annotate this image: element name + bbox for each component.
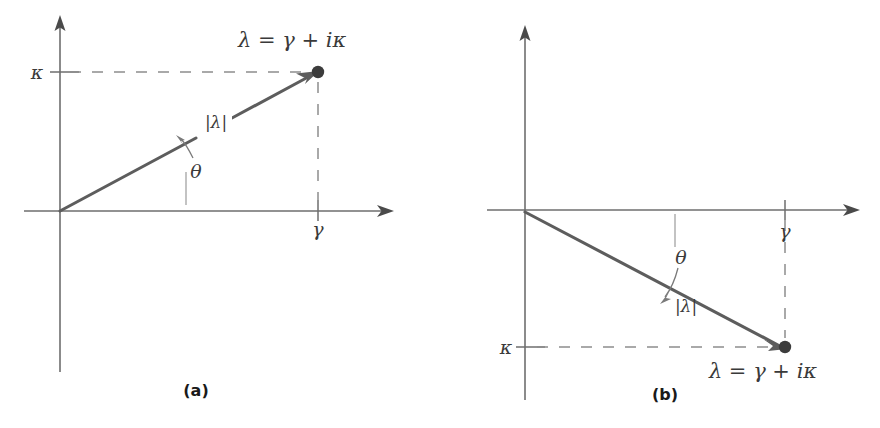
panel-a-magnitude-label: |λ| [205, 112, 227, 132]
panel-a-gamma-label: γ [312, 218, 324, 240]
panel-b-vector [525, 212, 787, 351]
panel-b-lambda-point [779, 341, 791, 353]
panel-a-horizontal-axis [24, 205, 394, 217]
panel-a-lambda-point [312, 66, 324, 78]
panel-a-theta-label: θ [190, 160, 202, 182]
complex-plane-figure: λ = γ + iκ κ γ |λ| θ (a) [0, 0, 880, 428]
panel-a-vector [60, 71, 319, 211]
panel-b-point-label: λ = γ + iκ [708, 359, 817, 383]
panel-a-vertical-axis [55, 15, 66, 372]
panel-b-caption: (b) [652, 385, 678, 404]
panel-b-kappa-label: κ [499, 336, 513, 358]
panel-b-magnitude-label: |λ| [675, 296, 697, 316]
panel-b-theta-label: θ [675, 246, 687, 268]
panel-a: λ = γ + iκ κ γ |λ| θ (a) [24, 15, 394, 400]
panel-b-gamma-label: γ [779, 220, 791, 242]
panel-a-kappa-label: κ [30, 61, 44, 83]
figure-container: λ = γ + iκ κ γ |λ| θ (a) [0, 0, 880, 428]
panel-a-point-label: λ = γ + iκ [237, 28, 346, 52]
panel-a-caption: (a) [183, 381, 208, 400]
panel-b: λ = γ + iκ κ γ |λ| θ (b) [487, 25, 860, 404]
panel-b-horizontal-axis [487, 204, 860, 216]
